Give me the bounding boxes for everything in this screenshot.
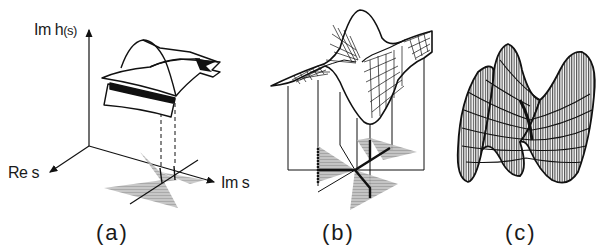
axis-label-im-h-main: Im h (34, 21, 63, 38)
branch-sectors (104, 152, 205, 208)
re-s-axis (50, 146, 89, 172)
axis-label-im-h-arg: (s) (63, 23, 77, 38)
panel-label-c: (c) (505, 220, 537, 246)
panel-a-diagram (50, 30, 220, 208)
figure-canvas (0, 0, 610, 252)
sector-plane (318, 138, 417, 210)
riemann-surface (102, 40, 220, 117)
panel-label-a: (a) (96, 220, 129, 246)
axis-label-re-s: Re s (8, 164, 39, 182)
panel-label-b: (b) (322, 220, 355, 246)
panel-b-diagram (271, 10, 432, 210)
panel-c-diagram (458, 44, 595, 183)
axis-label-im-s: Im s (221, 174, 249, 192)
saddle-surface (271, 10, 432, 124)
monkey-saddle-surface (458, 44, 595, 183)
axis-label-im-h: Im h(s) (34, 21, 77, 39)
